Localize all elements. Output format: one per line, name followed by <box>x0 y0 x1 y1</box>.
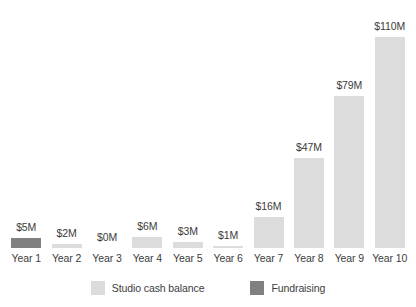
bar-fundraising[interactable] <box>11 238 41 248</box>
legend-swatch-icon <box>91 281 105 295</box>
bar-column[interactable]: $2M <box>46 0 86 248</box>
x-axis-label: Year 8 <box>289 252 329 264</box>
bar-studio-cash-balance[interactable] <box>173 242 203 248</box>
bar-studio-cash-balance[interactable] <box>52 244 82 248</box>
x-axis-label: Year 1 <box>6 252 46 264</box>
bar-value-label: $1M <box>208 229 248 241</box>
bar-series-group: $5M$2M$0M$6M$3M$1M$16M$47M$79M$110M <box>6 0 410 248</box>
bar-column[interactable]: $1M <box>208 0 248 248</box>
x-axis-label: Year 7 <box>248 252 288 264</box>
bar-value-label: $6M <box>127 220 167 232</box>
bar-studio-cash-balance[interactable] <box>334 96 364 248</box>
x-axis-label: Year 9 <box>329 252 369 264</box>
x-axis-label: Year 3 <box>87 252 127 264</box>
bar-column[interactable]: $6M <box>127 0 167 248</box>
bar-value-label: $0M <box>87 231 127 243</box>
bar-studio-cash-balance[interactable] <box>375 37 405 248</box>
bar-column[interactable]: $0M <box>87 0 127 248</box>
bar-column[interactable]: $16M <box>248 0 288 248</box>
bar-column[interactable]: $79M <box>329 0 369 248</box>
bar-studio-cash-balance[interactable] <box>132 237 162 249</box>
bar-value-label: $16M <box>248 200 288 212</box>
bar-value-label: $5M <box>6 221 46 233</box>
legend-label: Studio cash balance <box>112 282 205 294</box>
bar-column[interactable]: $110M <box>370 0 410 248</box>
x-axis-label: Year 10 <box>370 252 410 264</box>
bar-column[interactable]: $47M <box>289 0 329 248</box>
bar-studio-cash-balance[interactable] <box>254 217 284 248</box>
bar-value-label: $3M <box>168 225 208 237</box>
legend-label: Fundraising <box>271 282 325 294</box>
x-axis-label: Year 6 <box>208 252 248 264</box>
bar-chart: $5M$2M$0M$6M$3M$1M$16M$47M$79M$110M Year… <box>0 0 416 307</box>
plot-area: $5M$2M$0M$6M$3M$1M$16M$47M$79M$110M Year… <box>0 0 416 270</box>
x-axis-label: Year 4 <box>127 252 167 264</box>
bar-column[interactable]: $3M <box>168 0 208 248</box>
legend-item[interactable]: Fundraising <box>250 281 325 295</box>
x-axis-label: Year 5 <box>168 252 208 264</box>
legend-swatch-icon <box>250 281 264 295</box>
bar-value-label: $47M <box>289 141 329 153</box>
bar-value-label: $79M <box>329 79 369 91</box>
legend-item[interactable]: Studio cash balance <box>91 281 205 295</box>
chart-legend: Studio cash balanceFundraising <box>0 281 416 295</box>
bar-column[interactable]: $5M <box>6 0 46 248</box>
bar-value-label: $110M <box>370 20 410 32</box>
bar-studio-cash-balance[interactable] <box>213 246 243 249</box>
bar-value-label: $2M <box>46 227 86 239</box>
x-axis-labels: Year 1Year 2Year 3Year 4Year 5Year 6Year… <box>6 252 410 264</box>
bar-studio-cash-balance[interactable] <box>294 158 324 248</box>
x-axis-label: Year 2 <box>46 252 86 264</box>
